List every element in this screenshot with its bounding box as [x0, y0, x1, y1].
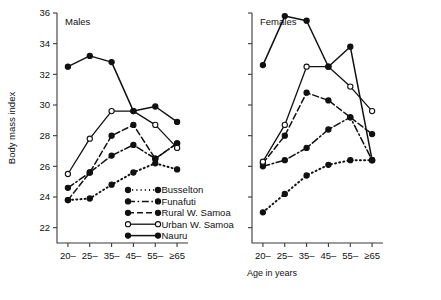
data-point-nauru: [65, 64, 70, 69]
data-point-nauru: [282, 14, 287, 19]
y-tick-label: 28: [39, 130, 50, 141]
y-tick-label: 32: [39, 69, 50, 80]
data-point-funafuti: [109, 153, 114, 158]
data-point-urban-w-samoa: [348, 84, 353, 89]
x-axis-title: Age in years: [247, 268, 298, 278]
legend-label-urban-w-samoa: Urban W. Samoa: [162, 219, 235, 230]
data-point-rural-w-samoa: [87, 170, 92, 175]
figure-bmi-by-age: 222426283032343620–25–35–45–55–≥65Males2…: [0, 0, 441, 300]
legend-marker-busselton: [125, 187, 130, 192]
data-point-rural-w-samoa: [109, 133, 114, 138]
data-point-rural-w-samoa: [131, 122, 136, 127]
data-point-nauru: [87, 53, 92, 58]
data-point-urban-w-samoa: [175, 145, 180, 150]
data-point-rural-w-samoa: [153, 156, 158, 161]
series-line-nauru: [68, 56, 177, 122]
data-point-urban-w-samoa: [304, 64, 309, 69]
data-point-rural-w-samoa: [304, 90, 309, 95]
y-tick-label: 24: [39, 191, 50, 202]
data-point-busselton: [131, 170, 136, 175]
data-point-urban-w-samoa: [282, 122, 287, 127]
x-tick-label: 25–: [277, 250, 294, 261]
data-point-funafuti: [326, 127, 331, 132]
data-point-rural-w-samoa: [65, 198, 70, 203]
data-point-urban-w-samoa: [260, 159, 265, 164]
data-point-rural-w-samoa: [326, 98, 331, 103]
series-line-busselton: [263, 160, 372, 212]
data-point-nauru: [370, 158, 375, 163]
data-point-nauru: [175, 119, 180, 124]
y-tick-label: 26: [39, 161, 50, 172]
data-point-urban-w-samoa: [87, 136, 92, 141]
data-point-rural-w-samoa: [348, 115, 353, 120]
data-point-nauru: [348, 44, 353, 49]
legend-marker-rural-w-samoa: [125, 210, 130, 215]
legend-marker-urban-w-samoa: [155, 222, 160, 227]
data-point-nauru: [131, 109, 136, 114]
data-point-urban-w-samoa: [65, 171, 70, 176]
data-point-funafuti: [131, 142, 136, 147]
data-point-busselton: [348, 158, 353, 163]
legend-marker-rural-w-samoa: [155, 210, 160, 215]
legend-marker-funafuti: [125, 199, 130, 204]
x-tick-label: ≥65: [169, 250, 185, 261]
x-tick-label: 55–: [147, 250, 164, 261]
y-axis-title: Body mass index: [6, 92, 17, 165]
legend-marker-funafuti: [155, 199, 160, 204]
y-tick-label: 36: [39, 7, 50, 18]
data-point-rural-w-samoa: [370, 132, 375, 137]
series-line-urban-w-samoa: [263, 67, 372, 162]
data-point-nauru: [304, 18, 309, 23]
chart-canvas: 222426283032343620–25–35–45–55–≥65Males2…: [0, 0, 441, 300]
y-tick-label: 34: [39, 38, 50, 49]
x-tick-label: 35–: [299, 250, 316, 261]
legend-label-funafuti: Funafuti: [162, 196, 196, 207]
data-point-busselton: [175, 167, 180, 172]
data-point-busselton: [326, 162, 331, 167]
panel-title-males: Males: [65, 16, 91, 27]
data-point-urban-w-samoa: [153, 122, 158, 127]
x-tick-label: 45–: [125, 250, 142, 261]
legend-label-nauru: Nauru: [162, 230, 188, 241]
data-point-urban-w-samoa: [370, 109, 375, 114]
axis-lines-females: [252, 13, 383, 243]
x-tick-label: 20–: [60, 250, 77, 261]
legend-marker-urban-w-samoa: [125, 222, 130, 227]
data-point-funafuti: [282, 158, 287, 163]
legend: BusseltonFunafutiRural W. SamoaUrban W. …: [125, 184, 234, 241]
x-tick-label: 35–: [104, 250, 121, 261]
data-point-nauru: [326, 64, 331, 69]
x-tick-label: 25–: [82, 250, 99, 261]
legend-marker-nauru: [155, 233, 160, 238]
x-tick-label: 45–: [320, 250, 337, 261]
x-tick-label: 55–: [342, 250, 359, 261]
data-point-busselton: [87, 196, 92, 201]
panel-females: 20–25–35–45–55–≥65Females: [248, 13, 383, 261]
x-tick-label: 20–: [255, 250, 272, 261]
x-tick-label: ≥65: [364, 250, 380, 261]
y-tick-label: 30: [39, 99, 50, 110]
data-point-nauru: [153, 104, 158, 109]
data-point-urban-w-samoa: [109, 109, 114, 114]
y-tick-label: 22: [39, 222, 50, 233]
legend-marker-nauru: [125, 233, 130, 238]
legend-label-rural-w-samoa: Rural W. Samoa: [162, 207, 232, 218]
data-point-funafuti: [304, 145, 309, 150]
data-point-busselton: [260, 210, 265, 215]
data-point-busselton: [282, 191, 287, 196]
data-point-busselton: [304, 173, 309, 178]
data-point-busselton: [109, 182, 114, 187]
legend-marker-busselton: [155, 187, 160, 192]
legend-label-busselton: Busselton: [162, 184, 204, 195]
data-point-nauru: [109, 60, 114, 65]
data-point-funafuti: [65, 185, 70, 190]
data-point-nauru: [260, 63, 265, 68]
data-point-rural-w-samoa: [282, 133, 287, 138]
